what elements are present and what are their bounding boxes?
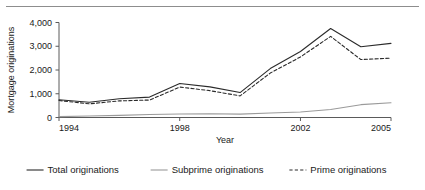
y-tick-label: 2,000	[29, 65, 52, 75]
y-axis-ticks	[56, 23, 60, 118]
series-line-prime-originations	[59, 36, 391, 103]
y-tick-label: 4,000	[29, 18, 52, 28]
y-tick-label: 3,000	[29, 41, 52, 51]
y-axis-tick-labels: 01,0002,0003,0004,000	[29, 18, 52, 123]
legend-label-subprime-originations: Subprime originations	[172, 164, 264, 175]
y-tick-label: 0	[47, 113, 52, 123]
series-paths-group	[59, 28, 391, 116]
x-tick-label: 1994	[59, 123, 79, 133]
x-tick-label: 2002	[290, 123, 310, 133]
legend-label-total-originations: Total originations	[48, 164, 120, 175]
x-axis-tick-labels: 1994199820022005	[59, 123, 391, 133]
x-tick-label: 2005	[371, 123, 391, 133]
y-tick-label: 1,000	[29, 89, 52, 99]
x-axis-title: Year	[216, 135, 234, 145]
mortgage-originations-line-chart: 01,0002,0003,0004,000 1994199820022005 M…	[0, 0, 425, 190]
series-line-total-originations	[59, 28, 391, 102]
y-axis-title: Mortgage originations	[6, 26, 16, 113]
chart-legend: Total originationsSubprime originationsP…	[27, 164, 387, 175]
x-axis-ticks	[59, 118, 391, 122]
series-line-subprime-originations	[59, 103, 391, 117]
x-tick-label: 1998	[170, 123, 190, 133]
figure-container: 01,0002,0003,0004,000 1994199820022005 M…	[0, 0, 425, 190]
legend-label-prime-originations: Prime originations	[310, 164, 386, 175]
